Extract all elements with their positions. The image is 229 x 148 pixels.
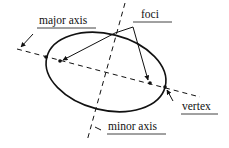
- foci-arrow-left: [63, 33, 115, 60]
- vertex-pointer: [167, 90, 173, 101]
- minor-axis-pointer: [95, 127, 101, 130]
- major-axis-label: major axis: [39, 15, 87, 27]
- foci-arrow-right: [133, 27, 148, 80]
- focus-point-right: [148, 81, 152, 85]
- major-axis-pointer: [21, 34, 33, 47]
- vertex-point-left: [44, 55, 48, 59]
- focus-point-left: [58, 59, 62, 63]
- foci-label: foci: [141, 9, 159, 21]
- minor-axis-label: minor axis: [108, 121, 157, 133]
- vertex-point-right: [163, 85, 167, 89]
- vertex-label: vertex: [182, 101, 211, 113]
